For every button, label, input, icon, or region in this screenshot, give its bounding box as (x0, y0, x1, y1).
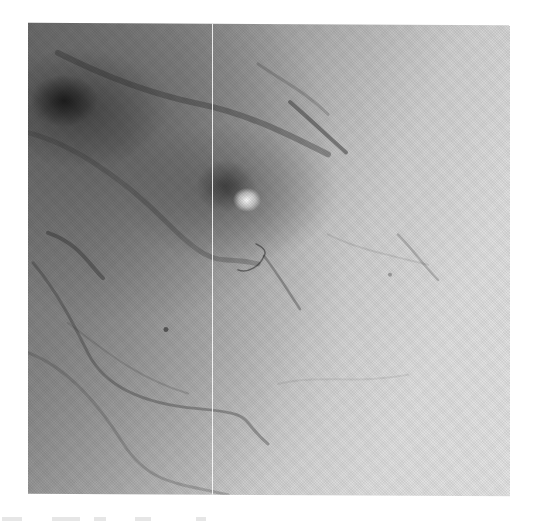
caption-fragment (0, 515, 534, 521)
vertical-line-artifact (212, 24, 213, 495)
vessel-lines (28, 23, 510, 497)
micrograph-image (28, 23, 510, 497)
